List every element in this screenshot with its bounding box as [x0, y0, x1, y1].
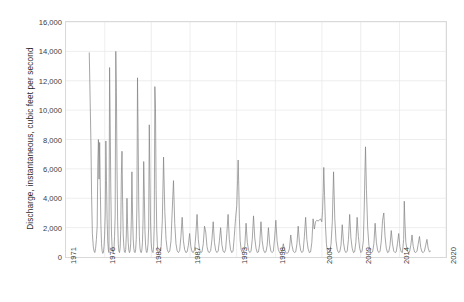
y-axis-tick-label: 14,000 [22, 47, 62, 56]
y-axis-tick-labels: 16,00014,00012,00010,0008,0006,0004,0002… [18, 0, 62, 302]
y-axis-tick-label: 0 [22, 253, 62, 262]
x-axis-tick-label: 1998 [278, 247, 287, 264]
y-axis-tick-label: 4,000 [22, 194, 62, 203]
discharge-series-line [89, 51, 430, 253]
x-axis-tick-label: 1987 [193, 247, 202, 264]
x-axis-tick-label: 2014 [402, 247, 411, 264]
y-axis-tick-label: 10,000 [22, 106, 62, 115]
plot-area [65, 21, 447, 258]
horizontal-gridlines [66, 22, 446, 228]
y-axis-tick-label: 8,000 [22, 135, 62, 144]
series-line-chart [66, 22, 446, 257]
x-axis-tick-label: 1993 [240, 247, 249, 264]
y-axis-tick-label: 16,000 [22, 18, 62, 27]
x-axis-tick-label: 2004 [325, 247, 334, 264]
x-axis-tick-label: 1976 [108, 247, 117, 264]
x-axis-tick-labels: 1971197619821987199319982004200920142020 [0, 262, 464, 302]
x-axis-tick-label: 2020 [449, 247, 458, 264]
x-axis-tick-label: 1971 [69, 247, 78, 264]
x-axis-tick-label: 1982 [154, 247, 163, 264]
y-axis-tick-label: 6,000 [22, 164, 62, 173]
y-axis-tick-label: 2,000 [22, 223, 62, 232]
y-axis-tick-label: 12,000 [22, 76, 62, 85]
discharge-time-series-chart: Discharge, instantaneous, cubic feet per… [0, 0, 464, 302]
x-axis-tick-label: 2009 [364, 247, 373, 264]
